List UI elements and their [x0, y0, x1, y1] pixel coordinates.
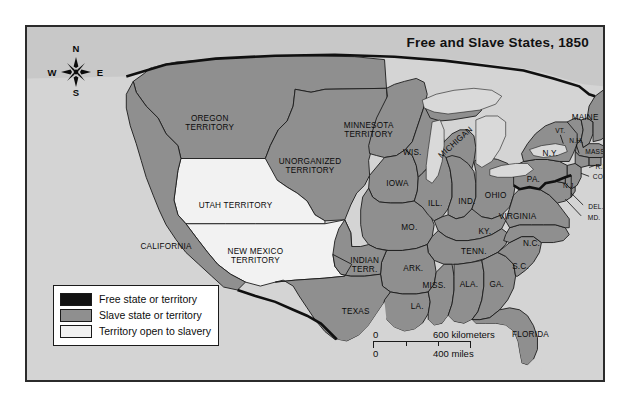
map-legend: Free state or territory Slave state or t… — [53, 285, 219, 346]
legend-item-slave: Slave state or territory — [60, 308, 211, 323]
compass-label-s: S — [73, 87, 79, 97]
scale-km-value: 600 kilometers — [433, 329, 495, 340]
map-scale-bar: 0 600 kilometers 0 400 miles — [373, 329, 513, 360]
map-frame: .slave { fill:#8f8f8f; stroke:#1a1a1a; s… — [25, 25, 605, 382]
region-arkansas — [381, 245, 437, 294]
legend-label-free: Free state or territory — [99, 294, 197, 305]
compass-rose: N S W E — [45, 39, 107, 97]
region-rhode-island — [589, 158, 601, 166]
scale-miles-row: 0 400 miles — [373, 348, 513, 360]
map-screenshot: .slave { fill:#8f8f8f; stroke:#1a1a1a; s… — [0, 0, 630, 410]
legend-item-open: Territory open to slavery — [60, 324, 211, 339]
compass-label-w: W — [48, 67, 57, 78]
compass-label-n: N — [73, 43, 80, 54]
compass-label-e: E — [97, 67, 103, 78]
legend-item-free: Free state or territory — [60, 292, 211, 307]
scale-km-zero: 0 — [373, 329, 378, 340]
legend-swatch-open-icon — [60, 325, 92, 338]
legend-swatch-free-icon — [60, 293, 92, 306]
scale-kilometers-row: 0 600 kilometers — [373, 329, 513, 341]
scale-mi-value: 400 miles — [433, 348, 474, 359]
legend-label-slave: Slave state or territory — [99, 310, 202, 321]
scale-line-graphic — [373, 341, 471, 348]
legend-label-open: Territory open to slavery — [99, 326, 211, 337]
legend-swatch-slave-icon — [60, 309, 92, 322]
scale-mi-zero: 0 — [373, 348, 378, 359]
page-title: Free and Slave States, 1850 — [406, 35, 589, 50]
